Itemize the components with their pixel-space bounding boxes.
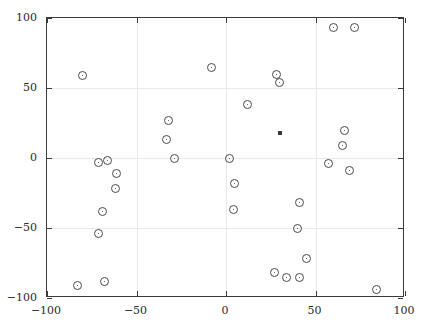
data-point-marker [207, 63, 216, 72]
x-axis-tick-mark [226, 18, 227, 23]
y-axis-tick-mark [398, 18, 403, 19]
data-point-marker [324, 159, 333, 168]
data-point-marker [94, 229, 103, 238]
plot-area [46, 17, 404, 297]
gridline-vertical [316, 18, 317, 296]
data-point-marker [78, 71, 87, 80]
data-point-marker [111, 184, 120, 193]
data-point-marker [112, 169, 121, 178]
data-point-marker [98, 207, 107, 216]
data-point-marker [270, 268, 279, 277]
data-point-marker [329, 23, 338, 32]
gridline-vertical [137, 18, 138, 296]
data-point-marker [243, 100, 252, 109]
x-axis-tick-mark [405, 291, 406, 296]
y-axis-tick-mark [398, 88, 403, 89]
y-axis-tick-label: 100 [0, 12, 37, 23]
y-axis-tick-label: 50 [0, 82, 37, 93]
x-axis-tick-mark [316, 18, 317, 23]
y-axis-tick-mark [398, 228, 403, 229]
x-axis-tick-mark [137, 291, 138, 296]
x-axis-tick-mark [405, 18, 406, 23]
x-axis-tick-label: 0 [222, 305, 229, 316]
gridline-horizontal [47, 88, 403, 89]
data-point-marker [170, 154, 179, 163]
data-point-marker [372, 285, 381, 294]
data-point-marker [350, 23, 359, 32]
data-point-marker [302, 254, 311, 263]
data-point-marker [338, 141, 347, 150]
y-axis-tick-label: −50 [0, 222, 37, 233]
y-axis-tick-mark [398, 298, 403, 299]
data-point-marker [229, 205, 238, 214]
y-axis-tick-mark [47, 298, 52, 299]
data-point-marker [73, 281, 82, 290]
y-axis-tick-mark [47, 228, 52, 229]
data-point-marker [164, 116, 173, 125]
y-axis-tick-label: −100 [0, 292, 37, 303]
x-axis-tick-mark [137, 18, 138, 23]
y-axis-tick-label: 0 [0, 152, 37, 163]
data-point-marker [100, 277, 109, 286]
data-point-centroid [278, 131, 282, 135]
data-point-marker [162, 135, 171, 144]
data-point-marker [282, 273, 291, 282]
x-axis-tick-mark [316, 291, 317, 296]
y-axis-tick-mark [398, 158, 403, 159]
data-point-marker [345, 166, 354, 175]
data-point-marker [230, 179, 239, 188]
y-axis-tick-mark [47, 88, 52, 89]
data-point-marker [94, 158, 103, 167]
y-axis-tick-mark [47, 158, 52, 159]
x-axis-tick-label: 50 [308, 305, 322, 316]
data-point-marker [293, 224, 302, 233]
x-axis-tick-label: 100 [394, 305, 415, 316]
data-point-marker [340, 126, 349, 135]
x-axis-tick-label: −100 [31, 305, 61, 316]
scatter-plot-figure: −100−50050100−100−50050100 [0, 0, 428, 325]
x-axis-tick-mark [47, 18, 48, 23]
data-point-marker [225, 154, 234, 163]
x-axis-tick-mark [47, 291, 48, 296]
data-point-marker [103, 156, 112, 165]
x-axis-tick-mark [226, 291, 227, 296]
data-point-marker [295, 273, 304, 282]
x-axis-tick-label: −50 [124, 305, 147, 316]
data-point-marker [275, 78, 284, 87]
data-point-marker [295, 198, 304, 207]
